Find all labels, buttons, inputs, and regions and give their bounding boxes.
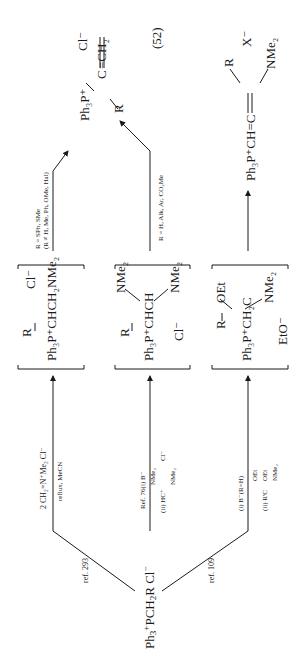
row2-intermediate: Ph₃P⁺CHCH: [142, 293, 155, 361]
reaction-scheme: (52) Ph3+PCH2R Cl− ref. 293 ref. 109 2 C…: [0, 0, 306, 661]
product-top-carbon: C: [95, 70, 108, 79]
ref-lower: ref. 109: [208, 558, 216, 583]
row2-reagent-anion: Cl⁻: [160, 451, 167, 461]
row2-intermediate-nme2-b: NMe₂: [168, 262, 181, 293]
row3-intermediate-oet: OEt: [214, 282, 227, 303]
product-bottom-anion: X⁻: [240, 31, 253, 47]
row3-intermediate-nme2: NMe₂: [262, 272, 275, 303]
product-top-anion: Cl⁻: [76, 32, 89, 51]
row3-reagent-oet-b: OEt: [262, 470, 269, 481]
product-top-r: R: [112, 104, 125, 113]
start-sub2: 2: [148, 596, 158, 601]
row1-condition-1: R = SPh, SMe: [35, 209, 42, 249]
starting-material: Ph3+PCH2R Cl−: [143, 566, 156, 649]
row3-reagent-oet-a: OEt: [252, 470, 259, 481]
row2-reagent-2: (ii) HC⁺: [160, 489, 167, 513]
row2-reagent-nme2-b: NMe₂: [170, 468, 177, 485]
start-charge: +: [141, 626, 151, 631]
row2-reagent-1: Ref. 76(i) B⁻: [140, 472, 147, 509]
row3-intermediate: Ph₃P⁺CH₂C: [240, 297, 253, 361]
product-bottom-nme2: NMe₂: [264, 38, 277, 69]
row2-intermediate-anion: Cl⁻: [172, 322, 185, 341]
row1-intermediate-anion: Cl⁻: [24, 270, 37, 289]
start-r: R: [142, 587, 157, 596]
equation-number: (52): [150, 27, 163, 49]
product-bottom-main: Ph₃P⁺CH=C: [244, 115, 257, 181]
row3-reagent-1: (i) B⁻(R=H): [238, 476, 245, 511]
start-main: PCH: [142, 600, 157, 625]
row1-intermediate-r: R: [20, 328, 33, 337]
product-top-vinyl: =CH₂: [95, 39, 108, 69]
row2-intermediate-nme2-a: NMe₂: [114, 262, 127, 293]
ref-upper: ref. 293: [82, 558, 90, 583]
row1-reagent-1: 2 CH₂=N⁺Me₂ Cl⁻: [40, 447, 48, 509]
row3-reagent-2: (ii) R'C: [262, 490, 269, 511]
start-anion: Cl: [142, 572, 157, 584]
start-anion-charge: −: [141, 566, 151, 571]
product-bottom-r: R: [222, 58, 235, 67]
row2-intermediate-r: R: [118, 328, 131, 337]
start-ph: Ph: [142, 635, 157, 649]
row3-intermediate-anion: EtO⁻: [276, 317, 289, 345]
row2-condition-1: R = H, Alk, Ar, CO₂Me: [158, 175, 165, 241]
product-top-phosphonium: Ph₃P⁺: [78, 89, 91, 121]
row1-intermediate: Ph₃P⁺CHCH₂NMe₂: [45, 257, 58, 361]
row2-reagent-nme2-a: NMe₂: [150, 468, 157, 485]
row3-intermediate-r: R: [214, 320, 227, 329]
start-sub3: 3: [148, 631, 158, 636]
row1-reagent-2: reflux, MeCN: [57, 462, 64, 501]
row1-condition-2: (R ≠ H, Me, Ph, OMe, Hal): [43, 172, 50, 249]
row3-reagent-nme2: NMe₂: [272, 464, 279, 481]
